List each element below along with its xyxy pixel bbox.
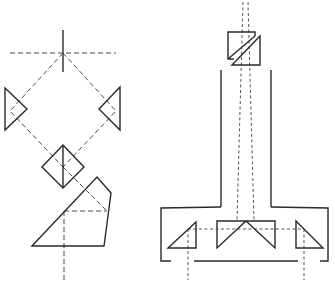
left-prism: [5, 88, 27, 130]
base-housing-right: [271, 207, 328, 261]
left-beam-path: [10, 53, 63, 167]
base-right-prism: [296, 221, 323, 248]
right-assembly: [161, 2, 328, 280]
right-beam-path: [63, 53, 116, 167]
optical-diagram: [0, 0, 335, 286]
beamsplitter-lower-half: [232, 36, 260, 65]
right-prism: [99, 87, 120, 130]
right-converging-beam: [248, 2, 254, 221]
left-converging-beam: [237, 2, 243, 221]
base-left-prism: [168, 222, 196, 248]
left-assembly: [5, 30, 120, 280]
center-roof-prism: [217, 221, 275, 248]
base-housing-left: [161, 207, 221, 261]
